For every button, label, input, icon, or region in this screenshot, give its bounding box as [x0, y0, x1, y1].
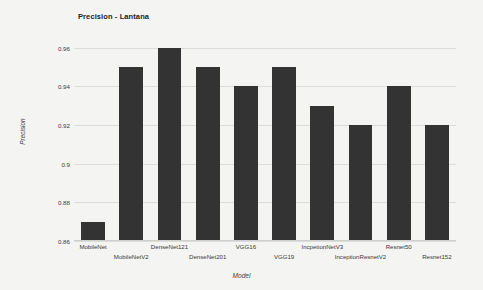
y-tick-label: 0.88	[58, 199, 70, 206]
bar	[158, 48, 182, 241]
bar	[425, 125, 449, 241]
x-tick-label: InceptionResnetV2	[335, 253, 387, 260]
y-tick-label: 0.92	[58, 122, 70, 129]
bar	[234, 86, 258, 241]
bar	[349, 125, 373, 241]
x-tick-label: Resnet50	[386, 243, 412, 250]
x-tick-label: VGG19	[274, 253, 294, 260]
bars-layer	[74, 38, 456, 241]
x-axis-title: Model	[0, 272, 483, 279]
x-axis-baseline	[74, 240, 456, 241]
bar	[196, 67, 220, 241]
precision-bar-chart: Precision - Lantana 0.960.940.920.90.880…	[0, 0, 483, 290]
bar	[119, 67, 143, 241]
bar	[272, 67, 296, 241]
plot-area	[74, 38, 456, 241]
bar	[310, 106, 334, 241]
x-tick-label: Resnet152	[422, 253, 451, 260]
y-tick-label: 0.96	[58, 44, 70, 51]
y-tick-label: 0.9	[61, 160, 70, 167]
x-axis-tick-labels: MobileNetMobileNetV2DenseNet121DenseNet2…	[74, 242, 456, 268]
y-axis-tick-labels: 0.960.940.920.90.880.86	[44, 38, 70, 241]
y-tick-label: 0.86	[58, 238, 70, 245]
x-tick-label: MobileNetV2	[114, 253, 149, 260]
x-tick-label: DenseNet201	[189, 253, 226, 260]
x-tick-label: VGG16	[236, 243, 256, 250]
x-tick-label: MobileNet	[79, 243, 106, 250]
y-axis-title: Precision	[19, 102, 26, 162]
chart-title: Precision - Lantana	[78, 12, 149, 21]
x-tick-label: DenseNet121	[151, 243, 188, 250]
y-tick-label: 0.94	[58, 83, 70, 90]
x-tick-label: IncpetionNetV3	[301, 243, 343, 250]
bar	[387, 86, 411, 241]
bar	[81, 222, 105, 241]
